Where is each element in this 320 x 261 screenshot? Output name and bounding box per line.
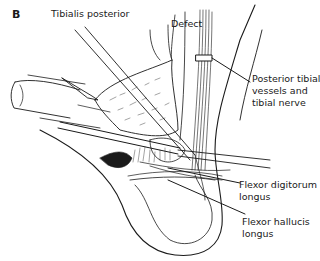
label-flexor-hallucis-line2: longus: [242, 228, 273, 239]
label-posterior-tibial-line3: tibial nerve: [252, 97, 306, 108]
label-tibialis-posterior: Tibialis posterior: [51, 8, 130, 19]
label-flexor-digitorum-line2: longus: [239, 191, 270, 202]
anatomical-illustration: B Tibialis posterior Defect Posterior ti…: [0, 0, 320, 261]
label-posterior-tibial-line1: Posterior tibial: [252, 73, 320, 84]
label-flexor-hallucis-line1: Flexor hallucis: [242, 216, 310, 227]
panel-label: B: [12, 8, 20, 21]
label-flexor-digitorum-line1: Flexor digitorum: [239, 179, 317, 190]
label-defect: Defect: [171, 18, 202, 29]
label-posterior-tibial-line2: vessels and: [252, 85, 308, 96]
